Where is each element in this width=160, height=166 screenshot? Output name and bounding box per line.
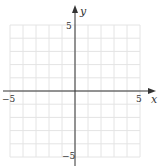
x-axis-label: x	[151, 93, 158, 106]
x-tick-label-right: 5	[136, 94, 142, 104]
y-tick-label-top: 5	[66, 21, 72, 31]
y-axis-label: y	[79, 5, 87, 18]
x-tick-label-left: −5	[2, 94, 16, 104]
y-axis-arrow-icon	[72, 5, 78, 13]
y-tick-label-bottom: −5	[62, 151, 76, 161]
coordinate-plane: y 5 −5 −5 5 x	[0, 0, 160, 166]
